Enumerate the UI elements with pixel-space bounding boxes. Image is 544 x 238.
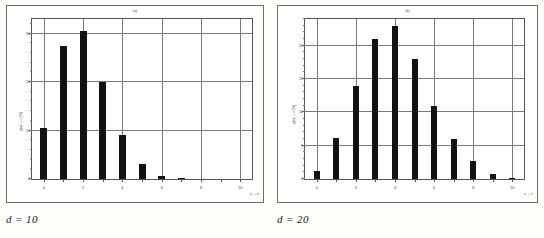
y-axis-minor-tick bbox=[303, 165, 305, 166]
gridline-vertical bbox=[201, 19, 202, 179]
x-axis-tick-label: 4 bbox=[121, 186, 123, 190]
gridline-vertical bbox=[162, 19, 163, 179]
figure-sheet: (a) p(x) ----> [%] x ----> 0246810010203… bbox=[0, 0, 544, 238]
chart-title-right: (b) bbox=[278, 9, 537, 13]
y-axis-minor-tick bbox=[303, 31, 305, 32]
x-axis-tick bbox=[512, 179, 513, 182]
bar bbox=[314, 171, 320, 179]
bar bbox=[40, 128, 47, 179]
y-axis-minor-tick bbox=[30, 139, 32, 140]
y-axis-minor-tick bbox=[30, 110, 32, 111]
x-axis-tick bbox=[181, 179, 182, 182]
y-axis-minor-tick bbox=[303, 58, 305, 59]
x-axis-tick-label: 6 bbox=[161, 186, 163, 190]
caption-right: d = 20 bbox=[277, 213, 309, 225]
y-axis-minor-tick bbox=[303, 131, 305, 132]
y-axis-tick-label: 0 bbox=[294, 177, 303, 181]
y-axis-minor-tick bbox=[30, 62, 32, 63]
x-axis-tick-label: 0 bbox=[43, 186, 45, 190]
y-axis-minor-tick bbox=[303, 98, 305, 99]
y-axis-minor-tick bbox=[303, 145, 305, 146]
y-axis-minor-tick bbox=[303, 151, 305, 152]
x-axis-tick-label: 2 bbox=[82, 186, 84, 190]
y-axis-tick-label: 0 bbox=[21, 177, 30, 181]
y-axis-minor-tick bbox=[30, 120, 32, 121]
y-axis-minor-tick bbox=[30, 149, 32, 150]
x-axis-tick-label: 8 bbox=[472, 186, 474, 190]
bar bbox=[80, 31, 87, 179]
y-axis-minor-tick bbox=[303, 118, 305, 119]
x-axis-tick bbox=[415, 179, 416, 182]
y-axis-tick-label: 10 bbox=[21, 129, 30, 133]
y-axis-tick-label: 30 bbox=[21, 32, 30, 36]
bar bbox=[119, 135, 126, 179]
bar bbox=[333, 138, 339, 179]
x-axis-tick bbox=[434, 179, 435, 182]
x-axis-tick bbox=[336, 179, 337, 182]
bar bbox=[392, 26, 398, 179]
gridline-horizontal bbox=[305, 45, 524, 46]
y-axis-minor-tick bbox=[303, 51, 305, 52]
gridline-vertical bbox=[473, 19, 474, 179]
x-axis-tick-label: 4 bbox=[394, 186, 396, 190]
bar bbox=[470, 161, 476, 179]
y-axis-minor-tick bbox=[30, 159, 32, 160]
bar bbox=[412, 59, 418, 179]
y-axis-minor-tick bbox=[303, 138, 305, 139]
bar bbox=[60, 46, 67, 179]
y-axis-minor-tick bbox=[303, 18, 305, 19]
y-axis-minor-tick bbox=[303, 38, 305, 39]
y-axis-minor-tick bbox=[303, 125, 305, 126]
x-axis-tick-label: 0 bbox=[316, 186, 318, 190]
x-axis-label-left: x ----> bbox=[250, 192, 259, 196]
x-axis-tick bbox=[162, 179, 163, 182]
x-axis-tick-label: 8 bbox=[200, 186, 202, 190]
y-axis-tick-label: 5 bbox=[294, 144, 303, 148]
plot-area-right: 024681005101520 bbox=[304, 18, 525, 180]
gridline-horizontal bbox=[32, 33, 252, 34]
y-axis-minor-tick bbox=[30, 178, 32, 179]
y-axis-minor-tick bbox=[303, 65, 305, 66]
x-axis-tick bbox=[317, 179, 318, 182]
x-axis-tick bbox=[63, 179, 64, 182]
y-axis-tick-label: 10 bbox=[294, 110, 303, 114]
x-axis-tick bbox=[103, 179, 104, 182]
y-axis-label-right: p(x) ----> [%] bbox=[292, 105, 296, 124]
bar bbox=[139, 164, 146, 179]
x-axis-tick bbox=[356, 179, 357, 182]
x-axis-tick-label: 6 bbox=[433, 186, 435, 190]
y-axis-minor-tick bbox=[303, 158, 305, 159]
x-axis-tick bbox=[493, 179, 494, 182]
x-axis-tick-label: 10 bbox=[238, 186, 242, 190]
y-axis-minor-tick bbox=[303, 111, 305, 112]
chart-title-left: (a) bbox=[7, 9, 263, 13]
x-axis-tick bbox=[240, 179, 241, 182]
chart-panel-left: (a) p(x) ----> [%] x ----> 0246810010203… bbox=[6, 5, 264, 203]
y-axis-minor-tick bbox=[30, 52, 32, 53]
y-axis-minor-tick bbox=[30, 33, 32, 34]
x-axis-tick bbox=[473, 179, 474, 182]
y-axis-minor-tick bbox=[30, 71, 32, 72]
y-axis-minor-tick bbox=[30, 168, 32, 169]
y-axis-minor-tick bbox=[30, 100, 32, 101]
y-axis-minor-tick bbox=[30, 130, 32, 131]
y-axis-minor-tick bbox=[303, 91, 305, 92]
x-axis-tick bbox=[454, 179, 455, 182]
x-axis-tick bbox=[375, 179, 376, 182]
x-axis-label-right: x ----> bbox=[524, 192, 533, 196]
y-axis-minor-tick bbox=[303, 25, 305, 26]
y-axis-minor-tick bbox=[303, 71, 305, 72]
x-axis-tick bbox=[221, 179, 222, 182]
y-axis-minor-tick bbox=[30, 23, 32, 24]
y-axis-minor-tick bbox=[303, 178, 305, 179]
x-axis-tick-label: 2 bbox=[355, 186, 357, 190]
bar bbox=[99, 82, 106, 179]
x-axis-tick bbox=[44, 179, 45, 182]
x-axis-tick bbox=[395, 179, 396, 182]
caption-left: d = 10 bbox=[6, 213, 38, 225]
plot-area-left: 02468100102030 bbox=[31, 18, 253, 180]
y-axis-tick-label: 20 bbox=[21, 80, 30, 84]
x-axis-tick-label: 10 bbox=[510, 186, 514, 190]
bar bbox=[451, 139, 457, 179]
bar bbox=[431, 106, 437, 179]
